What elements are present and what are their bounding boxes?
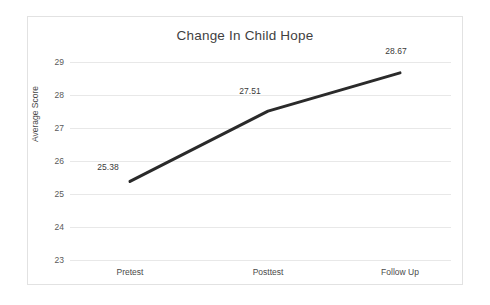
data-point-label: 28.67	[385, 46, 406, 56]
chart-container: Change In Child Hope Average Score 29282…	[0, 0, 490, 305]
data-point-label: 27.51	[239, 86, 260, 96]
data-point-label: 25.38	[97, 162, 118, 172]
line-series	[0, 0, 490, 305]
series-polyline	[130, 73, 400, 182]
